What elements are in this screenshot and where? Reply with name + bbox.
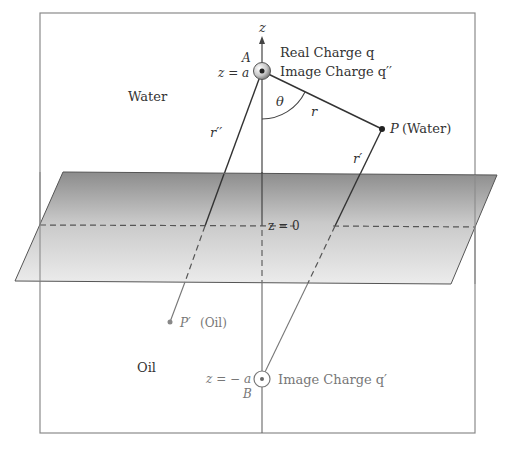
region-water-label: Water <box>128 89 168 104</box>
theta-label: θ <box>276 94 284 109</box>
r-label: r <box>311 104 318 119</box>
point-p-prime-symbol: P′ <box>179 316 191 330</box>
r-prime-line-lower <box>265 283 308 372</box>
z-axis-arrow-icon <box>259 36 265 44</box>
charge-a-line1: Real Charge q <box>280 45 374 60</box>
interface-label: z = 0 <box>268 219 300 233</box>
charge-b-caption: Image Charge q′ <box>278 372 387 387</box>
charge-b-point-label: B <box>242 387 252 401</box>
charge-a-position-label: z = a <box>217 66 249 80</box>
charge-a-center-dot-icon <box>260 69 265 74</box>
charge-a-caption-line1: Real Charge q <box>280 45 374 60</box>
charge-a-point-label: A <box>241 51 251 65</box>
point-p-medium: (Water) <box>402 121 451 136</box>
point-p-prime-dot-icon <box>168 320 173 325</box>
interface-plane <box>15 172 497 284</box>
r-prime-label: r′ <box>353 151 362 166</box>
region-oil-label: Oil <box>137 360 156 375</box>
charge-a-caption-line2: Image Charge q′′ <box>280 64 392 79</box>
z-axis-label: z <box>258 20 266 35</box>
charge-a-line2: Image Charge q′′ <box>280 64 392 79</box>
image-charge-diagram: z A z = a Real Charge q Image Charge q′′… <box>0 0 510 450</box>
point-p-symbol: P <box>389 121 399 136</box>
point-p-prime-medium: (Oil) <box>200 316 227 330</box>
charge-b-position-label: z = − a <box>205 372 251 386</box>
point-p-dot-icon <box>379 126 385 132</box>
charge-b-center-dot-icon <box>260 377 264 381</box>
r-double-prime-label: r′′ <box>210 125 222 140</box>
